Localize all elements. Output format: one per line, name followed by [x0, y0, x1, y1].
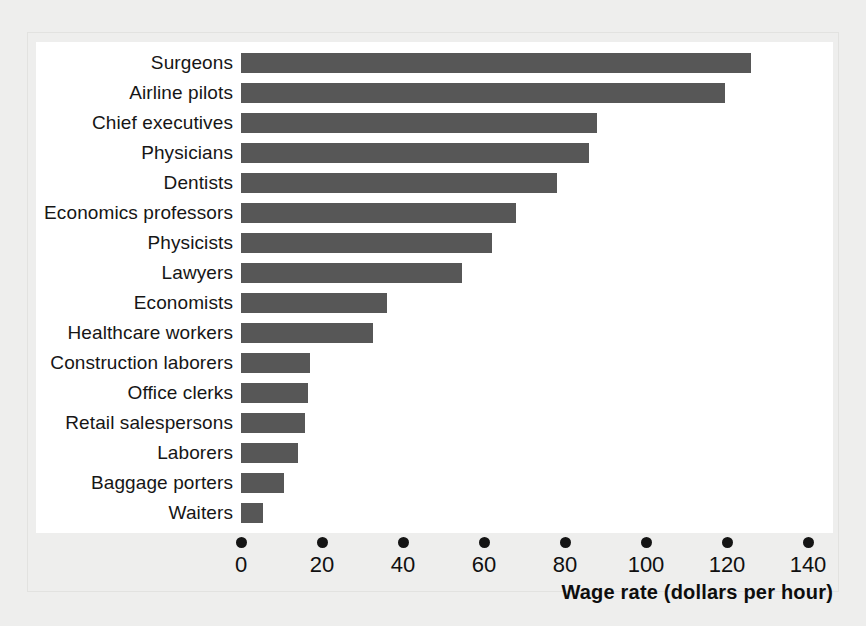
bar-row: Baggage porters: [0, 473, 866, 493]
bar: [241, 293, 387, 313]
category-label: Dentists: [0, 170, 233, 195]
x-axis-tick-dot: [236, 537, 247, 548]
x-axis-tick-dot: [722, 537, 733, 548]
category-label: Laborers: [0, 440, 233, 465]
x-axis-tick-dot: [317, 537, 328, 548]
x-axis-tick-label: 0: [201, 551, 281, 579]
category-label: Construction laborers: [0, 350, 233, 375]
category-label: Healthcare workers: [0, 320, 233, 345]
category-label: Physicists: [0, 230, 233, 255]
bar: [241, 113, 597, 133]
bar-row: Laborers: [0, 443, 866, 463]
category-label: Baggage porters: [0, 470, 233, 495]
category-label: Surgeons: [0, 50, 233, 75]
bar: [241, 143, 589, 163]
bar: [241, 353, 310, 373]
bar-row: Economics professors: [0, 203, 866, 223]
bar-row: Retail salespersons: [0, 413, 866, 433]
x-axis-tick-label: 140: [768, 551, 848, 579]
bar-row: Chief executives: [0, 113, 866, 133]
bar: [241, 473, 284, 493]
bar-row: Dentists: [0, 173, 866, 193]
category-label: Lawyers: [0, 260, 233, 285]
bar-row: Physicists: [0, 233, 866, 253]
x-axis-tick-dot: [641, 537, 652, 548]
bar: [241, 443, 298, 463]
bar: [241, 383, 308, 403]
x-axis-tick-label: 80: [525, 551, 605, 579]
bar-row: Office clerks: [0, 383, 866, 403]
bar: [241, 233, 492, 253]
bar-row: Construction laborers: [0, 353, 866, 373]
x-axis-tick-dot: [560, 537, 571, 548]
x-axis: Wage rate (dollars per hour) 02040608010…: [0, 533, 866, 626]
bar: [241, 53, 751, 73]
x-axis-tick-label: 40: [363, 551, 443, 579]
bar-row: Economists: [0, 293, 866, 313]
x-axis-tick-label: 100: [606, 551, 686, 579]
bar-row: Healthcare workers: [0, 323, 866, 343]
bar: [241, 503, 263, 523]
bar-chart-figure: SurgeonsAirline pilotsChief executivesPh…: [0, 0, 866, 626]
category-label: Retail salespersons: [0, 410, 233, 435]
bar-row: Airline pilots: [0, 83, 866, 103]
category-label: Chief executives: [0, 110, 233, 135]
category-label: Office clerks: [0, 380, 233, 405]
bar-row: Surgeons: [0, 53, 866, 73]
x-axis-tick-label: 20: [282, 551, 362, 579]
x-axis-tick-dot: [398, 537, 409, 548]
category-label: Airline pilots: [0, 80, 233, 105]
bar-row: Lawyers: [0, 263, 866, 283]
category-label: Economists: [0, 290, 233, 315]
x-axis-tick-label: 120: [687, 551, 767, 579]
bar-row: Physicians: [0, 143, 866, 163]
category-label: Waiters: [0, 500, 233, 525]
bar: [241, 323, 373, 343]
x-axis-tick-label: 60: [444, 551, 524, 579]
category-label: Physicians: [0, 140, 233, 165]
category-label: Economics professors: [0, 200, 233, 225]
x-axis-tick-dot: [803, 537, 814, 548]
bar: [241, 203, 516, 223]
bar: [241, 263, 462, 283]
bar-rows: SurgeonsAirline pilotsChief executivesPh…: [0, 42, 866, 533]
bar: [241, 173, 557, 193]
bar: [241, 83, 725, 103]
bar-row: Waiters: [0, 503, 866, 523]
x-axis-tick-dot: [479, 537, 490, 548]
x-axis-title: Wage rate (dollars per hour): [561, 581, 833, 604]
bar: [241, 413, 305, 433]
